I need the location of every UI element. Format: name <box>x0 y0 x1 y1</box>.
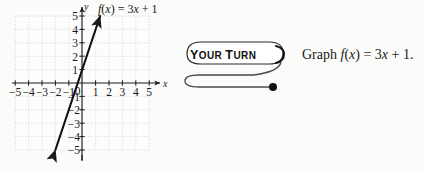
function-label-x2: x <box>132 2 139 16</box>
swoosh-end-dot <box>269 83 277 91</box>
y-tick-label-negative-group: −1 −2 −3 −4 −5 <box>68 91 80 157</box>
x-tick-label: −5 <box>9 86 21 98</box>
function-label-paren-close: ) <box>111 2 115 16</box>
y-tick-label: 5 <box>72 10 78 22</box>
x-tick-label: −3 <box>36 86 48 98</box>
function-label: f(x)=3x+1 <box>98 2 158 16</box>
figure-container: −5 −4 −3 −2 −1 1 2 3 4 5 0 5 4 3 2 1 <box>0 0 425 171</box>
your-turn-y: Y <box>190 48 199 62</box>
x-tick-label: 5 <box>146 86 152 98</box>
function-label-constant: 1 <box>152 2 158 16</box>
instruction-coefficient: 3 <box>375 47 382 62</box>
graph-svg: −5 −4 −3 −2 −1 1 2 3 4 5 0 5 4 3 2 1 <box>0 0 180 171</box>
y-tick-label: 4 <box>72 24 78 36</box>
y-tick-label: −2 <box>68 104 80 116</box>
y-tick-label: −3 <box>68 118 80 130</box>
x-tick-label: −4 <box>22 86 34 98</box>
instruction-text: Graph f(x) = 3x + 1. <box>302 47 413 63</box>
banner-swoosh <box>185 62 281 87</box>
your-turn-banner: YOUR TURN <box>183 40 298 95</box>
function-label-equals: = <box>118 2 125 16</box>
your-turn-our: OUR <box>199 50 222 61</box>
your-turn-urn: URN <box>233 50 256 61</box>
x-tick-label: 1 <box>93 86 99 98</box>
y-tick-label-positive-group: 5 4 3 2 1 <box>72 10 78 76</box>
y-tick-label: 2 <box>72 51 78 63</box>
y-axis-label: y <box>83 1 89 12</box>
your-turn-text: YOUR TURN <box>190 45 256 63</box>
instruction-constant: 1 <box>403 47 410 62</box>
x-tick-label: 4 <box>133 86 139 98</box>
instruction-period: . <box>410 47 414 62</box>
y-tick-label: 3 <box>72 37 78 49</box>
x-tick-label: 3 <box>120 86 126 98</box>
instruction-verb: Graph <box>302 47 337 62</box>
x-axis-label: x <box>162 78 168 89</box>
x-tick-label: −2 <box>49 86 61 98</box>
y-tick-label: −1 <box>68 91 80 103</box>
function-label-plus: + <box>142 2 149 16</box>
y-tick-label: 1 <box>72 64 78 76</box>
y-tick-label: −5 <box>68 144 80 156</box>
y-tick-label: −4 <box>68 131 80 143</box>
x-tick-label: 2 <box>106 86 112 98</box>
coordinate-graph: −5 −4 −3 −2 −1 1 2 3 4 5 0 5 4 3 2 1 <box>0 0 180 171</box>
